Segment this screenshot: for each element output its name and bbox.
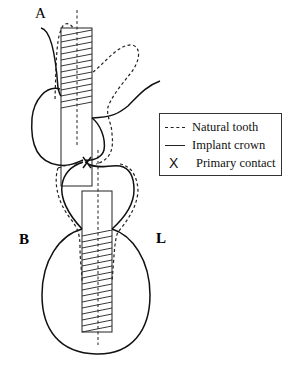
legend-item-natural-tooth: Natural tooth bbox=[165, 118, 281, 136]
label-lingual: L bbox=[156, 230, 166, 247]
legend-label: Natural tooth bbox=[192, 120, 258, 135]
x-mark-icon: X bbox=[165, 156, 191, 170]
legend-label: Implant crown bbox=[192, 138, 265, 153]
label-a: A bbox=[35, 5, 46, 22]
legend: Natural tooth Implant crown X Primary co… bbox=[159, 113, 282, 176]
label-buccal: B bbox=[19, 231, 29, 248]
legend-item-primary-contact: X Primary contact bbox=[165, 154, 281, 172]
legend-item-implant-crown: Implant crown bbox=[165, 136, 281, 154]
dashed-line-icon bbox=[165, 127, 187, 128]
legend-label: Primary contact bbox=[196, 156, 276, 171]
solid-line-icon bbox=[165, 145, 187, 146]
lower-implant bbox=[82, 191, 112, 332]
implant-occlusion-diagram bbox=[0, 0, 289, 368]
